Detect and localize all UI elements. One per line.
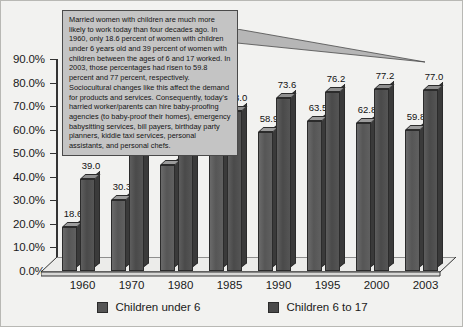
bar: 63.5 xyxy=(307,121,322,271)
bar-side-face xyxy=(144,147,149,267)
y-axis-tick-mark xyxy=(50,83,57,84)
bar-side-face xyxy=(291,90,296,267)
legend-swatch-icon xyxy=(268,302,279,313)
y-axis-tick-mark xyxy=(50,130,57,131)
y-axis-tick-mark xyxy=(50,200,57,201)
y-axis-tick-label: 10.0% xyxy=(13,241,45,253)
y-axis-tick-label: 20.0% xyxy=(13,218,45,230)
y-axis-tick-mark xyxy=(50,177,57,178)
y-axis-tick-label: 70.0% xyxy=(13,100,45,112)
legend-item[interactable]: Children under 6 xyxy=(97,301,200,313)
bar: 77.0 xyxy=(423,90,438,271)
bar: 18.6 xyxy=(62,227,77,271)
bar-front-face xyxy=(374,89,389,271)
bar-front-face xyxy=(258,132,273,271)
callout-arrow-icon xyxy=(237,29,425,69)
bar-front-face xyxy=(356,123,371,271)
bar: 39.0 xyxy=(80,179,95,271)
bar-front-face xyxy=(325,92,340,271)
bar-value-label: 76.2 xyxy=(319,73,353,84)
y-axis-tick-label: 30.0% xyxy=(13,194,45,206)
legend-item-label: Children under 6 xyxy=(115,301,200,313)
x-axis-tick-label: 2003 xyxy=(401,279,450,291)
bar-side-face xyxy=(95,171,100,267)
bar-front-face xyxy=(160,165,175,271)
x-axis-tick-label: 2000 xyxy=(352,279,401,291)
x-axis-tick-label: 1970 xyxy=(107,279,156,291)
y-axis-tick-label: 40.0% xyxy=(13,171,45,183)
bar-value-label: 39.0 xyxy=(74,160,108,171)
bar-side-face xyxy=(242,103,247,267)
bar-front-face xyxy=(405,130,420,271)
y-axis-tick-label: 90.0% xyxy=(13,53,45,65)
bar: 58.9 xyxy=(258,132,273,271)
bar: 59.8 xyxy=(405,130,420,271)
callout-text-box: Married women with children are much mor… xyxy=(62,10,238,156)
bar-front-face xyxy=(307,121,322,271)
x-axis-tick-label: 1980 xyxy=(156,279,205,291)
bar-front-face xyxy=(276,98,291,271)
bar-front-face xyxy=(423,90,438,271)
bar-value-label: 73.6 xyxy=(270,79,304,90)
bar-front-face xyxy=(129,155,144,271)
bar-side-face xyxy=(389,81,394,267)
y-axis-tick-label: 50.0% xyxy=(13,147,45,159)
bar-front-face xyxy=(111,200,126,271)
y-axis-tick-mark xyxy=(50,224,57,225)
bar-side-face xyxy=(438,82,443,267)
bar-value-label: 77.0 xyxy=(417,71,451,82)
x-axis-tick-label: 1985 xyxy=(205,279,254,291)
y-axis-tick-label: 80.0% xyxy=(13,77,45,89)
chart-screenshot: 0.0%10.0%20.0%30.0%40.0%50.0%60.0%70.0%8… xyxy=(0,0,463,327)
callout-text: Married women with children are much mor… xyxy=(69,15,230,150)
y-axis-tick-mark xyxy=(50,153,57,154)
y-axis-tick-mark xyxy=(50,106,57,107)
y-axis-tick-label: 60.0% xyxy=(13,124,45,136)
bar-front-face xyxy=(209,145,224,271)
x-axis-tick-label: 1990 xyxy=(254,279,303,291)
bar: 76.2 xyxy=(325,92,340,271)
bar: 73.6 xyxy=(276,98,291,271)
x-axis-labels: 19601970198019851990199520002003 xyxy=(58,279,450,295)
legend-swatch-icon xyxy=(97,302,108,313)
x-axis-tick-label: 1960 xyxy=(58,279,107,291)
legend-item[interactable]: Children 6 to 17 xyxy=(268,301,367,313)
bar: 62.8 xyxy=(356,123,371,271)
legend-item-label: Children 6 to 17 xyxy=(286,301,367,313)
y-axis-tick-mark xyxy=(50,247,57,248)
bar: 53.4 xyxy=(209,145,224,271)
bar-front-face xyxy=(62,227,77,271)
bar: 30.3 xyxy=(111,200,126,271)
bar-front-face xyxy=(80,179,95,271)
x-axis-tick-label: 1995 xyxy=(303,279,352,291)
bar: 77.2 xyxy=(374,89,389,271)
chart-legend: Children under 6Children 6 to 17 xyxy=(1,301,463,313)
y-axis-tick-mark xyxy=(50,59,57,60)
bar-value-label: 77.2 xyxy=(368,70,402,81)
bar: 45.1 xyxy=(160,165,175,271)
bar-side-face xyxy=(340,84,345,267)
bar: 49.2 xyxy=(129,155,144,271)
